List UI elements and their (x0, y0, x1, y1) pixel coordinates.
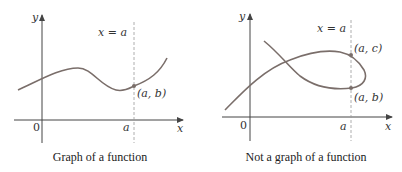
origin-label: 0 (33, 121, 40, 134)
x-label: x (177, 122, 184, 135)
loop-curve (225, 41, 366, 110)
a-tick-label: a (123, 121, 130, 134)
caption: Graph of a function (53, 150, 147, 164)
a-tick-label: a (340, 120, 347, 133)
point-label-b: (a, b) (354, 91, 383, 104)
point-a-c (349, 53, 353, 57)
origin-label: 0 (240, 119, 247, 132)
y-label: y (31, 11, 39, 24)
y-label: y (238, 10, 246, 23)
point-label: (a, b) (137, 87, 166, 100)
vertical-line-test-diagram: y x 0 a x = a (a, b) Graph of a function… (0, 0, 402, 172)
line-label: x = a (98, 26, 127, 39)
point-label-c: (a, c) (354, 42, 382, 55)
point-a-b (132, 84, 136, 88)
caption: Not a graph of a function (246, 150, 367, 164)
point-a-b (349, 86, 353, 90)
panel-not-function: y x 0 a x = a (a, c) (a, b) Not a graph … (222, 10, 392, 164)
x-label: x (385, 120, 392, 133)
panel-function: y x 0 a x = a (a, b) Graph of a function (14, 11, 184, 164)
line-label: x = a (317, 22, 346, 35)
function-curve (18, 58, 167, 91)
